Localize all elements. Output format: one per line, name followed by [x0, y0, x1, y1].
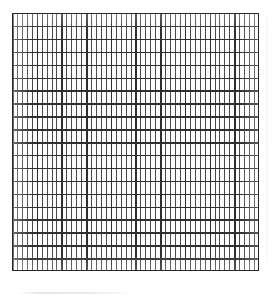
graph-paper-page: Scanned sheet of blank rectangular grid … — [0, 0, 274, 305]
graph-paper-grid — [12, 13, 259, 271]
paper-smudge-artifact — [18, 292, 136, 294]
sheet-right-edge-artifact — [266, 6, 268, 278]
